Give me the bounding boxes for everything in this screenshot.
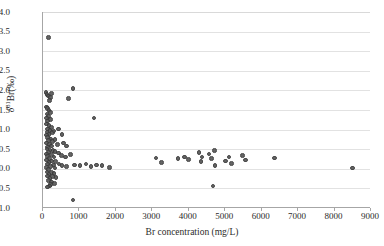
data-point [159, 160, 164, 165]
y-tick-label: 4.0 [0, 8, 10, 17]
data-point [100, 163, 105, 168]
gridline [43, 12, 370, 13]
gridline [43, 169, 370, 170]
data-point [64, 144, 69, 149]
data-point [46, 35, 51, 40]
y-axis-title: δ81Br(‰) [4, 46, 16, 142]
data-point [84, 162, 89, 167]
x-tick-mark [151, 208, 152, 211]
data-point [154, 156, 159, 161]
data-point [227, 155, 232, 160]
y-axis-title-superscript: 81 [4, 101, 11, 108]
data-point [107, 165, 112, 170]
y-tick-label: -0.5 [0, 184, 10, 193]
data-point [197, 150, 202, 155]
x-tick-mark [188, 208, 189, 211]
data-point [176, 156, 181, 161]
data-point [243, 158, 248, 163]
data-point [60, 132, 65, 137]
data-point [55, 142, 60, 147]
data-point [199, 159, 204, 164]
data-point [223, 159, 228, 164]
data-point [78, 163, 83, 168]
gridline [43, 110, 370, 111]
x-tick-label: 9000 [340, 212, 384, 221]
x-tick-mark [42, 208, 43, 211]
x-tick-mark [224, 208, 225, 211]
y-axis-title-delta: δ [6, 108, 16, 112]
data-point [71, 198, 76, 203]
data-point [92, 116, 97, 121]
data-point [63, 155, 68, 160]
data-point [52, 181, 57, 186]
x-tick-mark [297, 208, 298, 211]
data-point [66, 96, 71, 101]
y-tick-label: 0.0 [0, 164, 10, 173]
gridline [43, 130, 370, 131]
x-tick-mark [334, 208, 335, 211]
data-point [209, 156, 214, 161]
data-point [45, 185, 50, 190]
data-point [186, 157, 191, 162]
gridline [43, 32, 370, 33]
x-axis-title: Br concentration (mg/L) [0, 227, 384, 237]
data-point [72, 163, 77, 168]
data-point [64, 164, 69, 169]
data-point [54, 175, 59, 180]
x-tick-mark [115, 208, 116, 211]
data-point [213, 163, 218, 168]
gridline [43, 51, 370, 52]
y-tick-label: -1.0 [0, 204, 10, 213]
data-point [212, 148, 217, 153]
data-point [89, 164, 94, 169]
y-axis-title-unit: (‰) [6, 76, 16, 92]
data-point [272, 156, 277, 161]
scatter-chart: -1.0-0.50.00.51.01.52.02.53.03.54.001000… [0, 0, 384, 246]
data-point [56, 127, 61, 132]
gridline [43, 71, 370, 72]
x-tick-mark [370, 208, 371, 211]
y-tick-label: 0.5 [0, 145, 10, 154]
x-tick-mark [261, 208, 262, 211]
x-tick-mark [78, 208, 79, 211]
y-axis-title-element: Br [6, 92, 16, 102]
data-point [71, 86, 76, 91]
data-point [229, 161, 234, 166]
data-point [47, 98, 52, 103]
data-point [68, 152, 73, 157]
gridline [43, 188, 370, 189]
plot-area [42, 12, 370, 208]
data-point [49, 91, 54, 96]
data-point [94, 163, 99, 168]
gridline [43, 149, 370, 150]
y-tick-label: 3.5 [0, 27, 10, 36]
gridline [43, 90, 370, 91]
